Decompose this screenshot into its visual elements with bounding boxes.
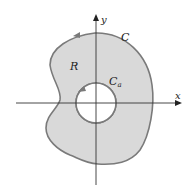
region-label: R — [69, 60, 78, 73]
outer-curve-label: C — [121, 31, 130, 44]
y-axis-arrow-icon — [93, 14, 99, 21]
inner-curve-label-sub: a — [117, 81, 121, 89]
x-axis-label: x — [175, 90, 181, 101]
y-axis-label: y — [100, 14, 107, 25]
diagram-canvas: x y C R Ca — [0, 0, 191, 192]
